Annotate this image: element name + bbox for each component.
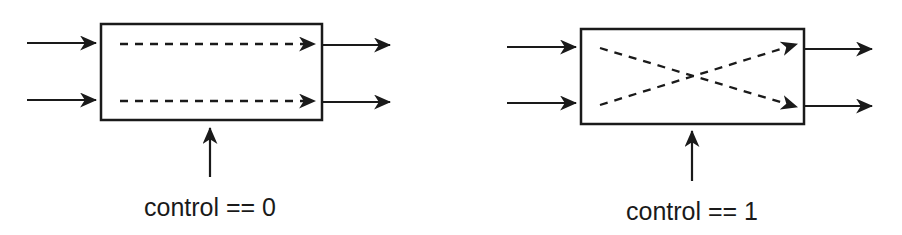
control-label: control == 0 <box>144 193 276 221</box>
switch-diagram-straight: control == 0 <box>27 24 390 221</box>
internal-path-cross-2 <box>600 44 797 105</box>
control-label: control == 1 <box>626 197 758 225</box>
switch-box <box>101 24 322 120</box>
switch-diagrams: control == 0 control == 1 <box>0 0 902 235</box>
switch-diagram-crossed: control == 1 <box>507 29 872 225</box>
internal-path-cross-1 <box>600 48 797 107</box>
